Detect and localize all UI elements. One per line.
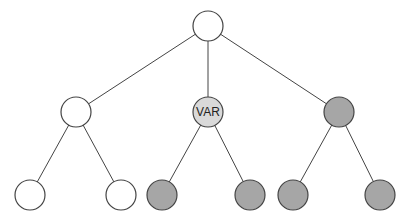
edge-root-mid-left [76, 26, 208, 112]
node-label: VAR [196, 105, 220, 119]
node-root [193, 11, 223, 41]
node-leaf-3 [147, 180, 177, 210]
node-circle [278, 180, 308, 210]
node-circle [235, 180, 265, 210]
node-circle [147, 180, 177, 210]
node-mid-right [324, 97, 354, 127]
node-leaf-1 [15, 180, 45, 210]
edge-root-mid-right [208, 26, 339, 112]
node-circle [324, 97, 354, 127]
node-mid-center: VAR [193, 97, 223, 127]
node-circle [61, 97, 91, 127]
node-circle [365, 180, 395, 210]
tree-diagram: VAR [0, 0, 410, 224]
node-mid-left [61, 97, 91, 127]
node-circle [193, 11, 223, 41]
node-circle [106, 180, 136, 210]
node-leaf-2 [106, 180, 136, 210]
node-circle [15, 180, 45, 210]
node-leaf-4 [235, 180, 265, 210]
tree-svg: VAR [0, 0, 410, 224]
node-leaf-5 [278, 180, 308, 210]
node-leaf-6 [365, 180, 395, 210]
